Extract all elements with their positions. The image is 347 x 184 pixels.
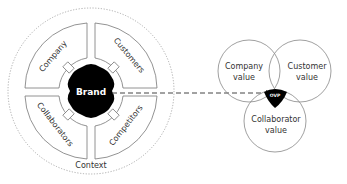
company-value-line1: Company (225, 62, 263, 71)
customer-value-line2: value (296, 73, 318, 82)
context-label: Context (75, 161, 106, 170)
ovp-intersection (264, 89, 287, 108)
diagram-canvas: Brand Company Customers Collaborators Co… (0, 0, 347, 184)
brand-label: Brand (76, 87, 106, 97)
collaborator-value-line1: Collaborator (251, 115, 301, 124)
customer-value-line1: Customer (288, 62, 328, 71)
ovp-label: OVP (270, 93, 281, 98)
collaborator-value-line2: value (265, 126, 287, 135)
company-value-line2: value (233, 73, 255, 82)
